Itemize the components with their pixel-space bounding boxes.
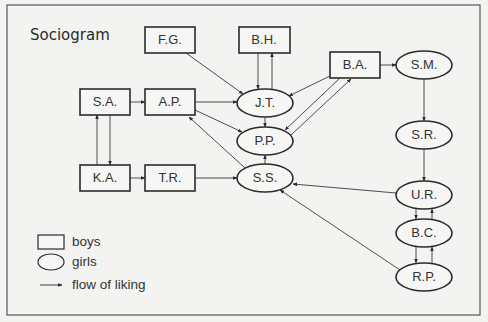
node-label: B.A. <box>343 57 368 72</box>
node-bh: B.H. <box>239 27 290 53</box>
node-label: F.G. <box>158 32 182 47</box>
node-label: S.A. <box>93 94 118 109</box>
node-tr: T.R. <box>145 165 195 191</box>
legend-flow-label: flow of liking <box>72 277 146 292</box>
node-ss: S.S. <box>237 164 293 192</box>
sociogram-diagram: Sociogram F.G. B.H. <box>0 0 488 322</box>
legend-box-icon <box>38 235 64 249</box>
legend-ellipse-icon <box>38 254 64 270</box>
node-label: J.T. <box>255 95 275 110</box>
node-label: S.M. <box>411 57 438 72</box>
node-label: R.P. <box>412 269 436 284</box>
node-fg: F.G. <box>145 27 195 53</box>
node-label: S.R. <box>411 127 436 142</box>
node-sr: S.R. <box>396 121 452 149</box>
node-label: P.P. <box>254 133 275 148</box>
node-label: K.A. <box>93 170 118 185</box>
node-label: A.P. <box>159 94 182 109</box>
node-label: S.S. <box>253 170 278 185</box>
legend-girls-label: girls <box>72 254 97 269</box>
node-sm: S.M. <box>396 51 452 79</box>
node-ap: A.P. <box>145 89 195 115</box>
node-bc: B.C. <box>396 219 452 247</box>
node-label: B.H. <box>251 32 276 47</box>
node-ka: K.A. <box>80 165 130 191</box>
node-ur: U.R. <box>396 181 452 209</box>
diagram-title: Sociogram <box>30 26 110 44</box>
node-sa: S.A. <box>80 89 130 115</box>
node-label: T.R. <box>158 170 181 185</box>
node-jt: J.T. <box>237 89 293 117</box>
node-rp: R.P. <box>396 263 452 291</box>
legend-boys-label: boys <box>72 234 101 249</box>
node-ba: B.A. <box>330 52 380 78</box>
node-label: B.C. <box>411 225 436 240</box>
node-pp: P.P. <box>237 127 293 155</box>
node-label: U.R. <box>411 187 437 202</box>
